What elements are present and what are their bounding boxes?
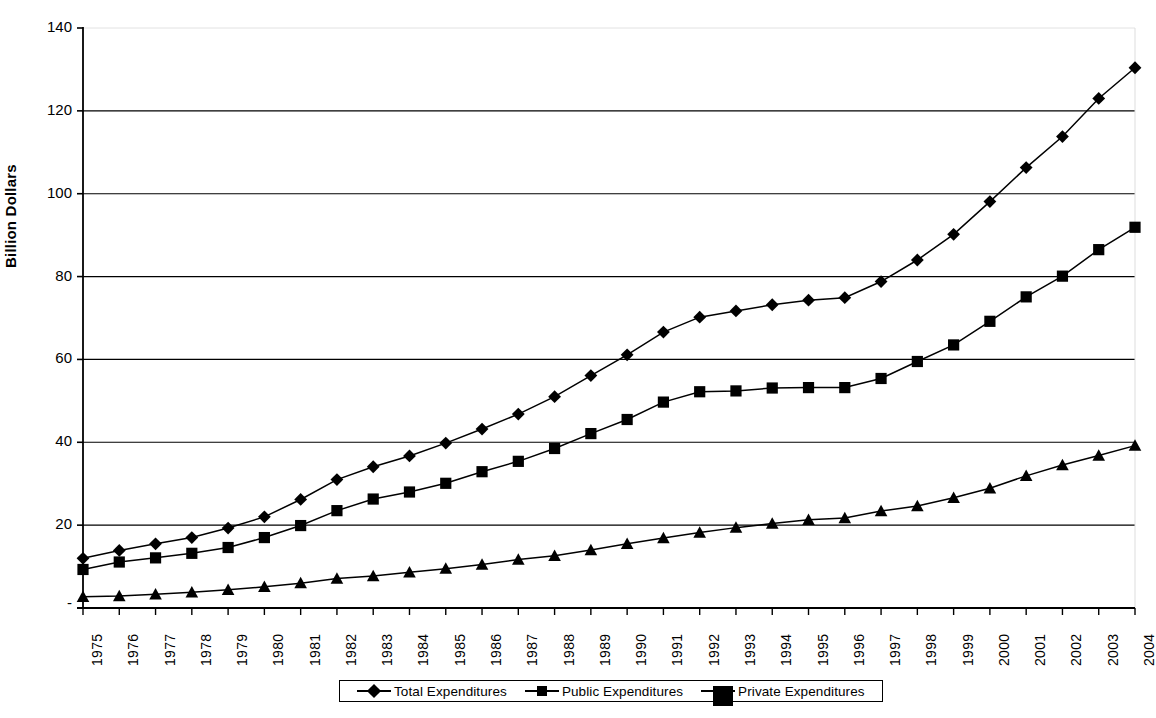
- x-tick-label: 1993: [742, 634, 758, 666]
- series-private-expenditures: [77, 439, 1142, 602]
- chart-legend: Total ExpendituresPublic ExpendituresPri…: [339, 680, 883, 702]
- data-point-marker: [367, 460, 380, 473]
- x-tick-label: 1985: [452, 634, 468, 666]
- x-tick-label: 2002: [1068, 634, 1084, 666]
- line-chart: Billion Dollars -20406080100120140 19751…: [0, 0, 1156, 718]
- data-point-marker: [223, 542, 234, 553]
- y-tick-label: -: [26, 594, 72, 611]
- data-point-marker: [294, 493, 307, 506]
- y-tick-label: 60: [26, 349, 72, 366]
- data-point-marker: [1129, 222, 1140, 233]
- plot-area: [0, 0, 1156, 718]
- data-point-marker: [114, 556, 125, 567]
- series-line: [83, 227, 1135, 569]
- data-point-marker: [331, 505, 342, 516]
- data-point-marker: [911, 254, 924, 267]
- data-point-marker: [1057, 271, 1068, 282]
- data-point-marker: [875, 373, 886, 384]
- data-point-marker: [149, 537, 162, 550]
- x-tick-label: 1992: [706, 634, 722, 666]
- data-point-marker: [766, 298, 779, 311]
- data-point-marker: [803, 382, 814, 393]
- x-tick-label: 2003: [1105, 634, 1121, 666]
- data-point-marker: [331, 473, 344, 486]
- data-point-marker: [476, 423, 489, 436]
- data-point-marker: [549, 443, 560, 454]
- data-point-marker: [584, 369, 597, 382]
- data-point-marker: [77, 552, 90, 565]
- series-line: [83, 446, 1135, 597]
- x-tick-label: 1997: [887, 634, 903, 666]
- data-point-marker: [1021, 291, 1032, 302]
- data-point-marker: [150, 552, 161, 563]
- x-tick-label: 2004: [1141, 634, 1156, 666]
- x-tick-label: 1995: [815, 634, 831, 666]
- triangle-marker-icon: [701, 685, 735, 697]
- data-point-marker: [548, 390, 561, 403]
- x-tick-label: 2000: [996, 634, 1012, 666]
- x-tick-label: 1976: [125, 634, 141, 666]
- data-point-marker: [838, 291, 851, 304]
- data-point-marker: [767, 382, 778, 393]
- data-point-marker: [404, 486, 415, 497]
- x-tick-label: 1975: [89, 634, 105, 666]
- y-tick-label: 20: [26, 515, 72, 532]
- legend-item-diamond: Total Expenditures: [357, 684, 507, 699]
- x-tick-label: 1984: [415, 634, 431, 666]
- series-public-expenditures: [77, 222, 1140, 575]
- x-tick-label: 1988: [561, 634, 577, 666]
- data-point-marker: [693, 311, 706, 324]
- data-point-marker: [622, 414, 633, 425]
- data-point-marker: [77, 564, 88, 575]
- data-point-marker: [186, 548, 197, 559]
- legend-marker: [537, 686, 547, 696]
- x-tick-label: 1996: [851, 634, 867, 666]
- data-point-marker: [948, 339, 959, 350]
- legend-item-square: Public Expenditures: [525, 684, 683, 699]
- data-point-marker: [258, 510, 271, 523]
- data-point-marker: [185, 531, 198, 544]
- x-tick-label: 2001: [1032, 634, 1048, 666]
- data-point-marker: [1093, 244, 1104, 255]
- y-tick-label: 80: [26, 267, 72, 284]
- data-point-marker: [694, 386, 705, 397]
- data-point-marker: [295, 520, 306, 531]
- data-point-marker: [113, 544, 126, 557]
- data-point-marker: [513, 456, 524, 467]
- data-point-marker: [368, 493, 379, 504]
- x-tick-label: 1982: [343, 634, 359, 666]
- data-point-marker: [259, 532, 270, 543]
- x-tick-label: 1983: [379, 634, 395, 666]
- data-point-marker: [802, 294, 815, 307]
- data-point-marker: [439, 437, 452, 450]
- x-tick-label: 1981: [307, 634, 323, 666]
- legend-item-triangle: Private Expenditures: [701, 684, 865, 699]
- data-point-marker: [1129, 439, 1142, 450]
- data-point-marker: [984, 316, 995, 327]
- data-point-marker: [658, 397, 669, 408]
- legend-label: Public Expenditures: [562, 684, 683, 699]
- legend-marker: [713, 686, 733, 706]
- data-point-marker: [585, 428, 596, 439]
- legend-label: Private Expenditures: [738, 684, 865, 699]
- data-point-marker: [222, 522, 235, 535]
- data-point-marker: [839, 382, 850, 393]
- x-tick-label: 1977: [162, 634, 178, 666]
- data-point-marker: [476, 466, 487, 477]
- series-line: [83, 68, 1135, 559]
- data-point-marker: [657, 326, 670, 339]
- legend-label: Total Expenditures: [394, 684, 507, 699]
- x-tick-label: 1999: [960, 634, 976, 666]
- x-tick-label: 1987: [524, 634, 540, 666]
- square-marker-icon: [525, 685, 559, 697]
- x-tick-label: 1998: [923, 634, 939, 666]
- y-tick-label: 100: [26, 184, 72, 201]
- y-tick-label: 40: [26, 432, 72, 449]
- x-tick-label: 1991: [669, 634, 685, 666]
- x-tick-label: 1979: [234, 634, 250, 666]
- series-total-expenditures: [77, 61, 1142, 564]
- data-point-marker: [403, 450, 416, 463]
- data-point-marker: [512, 408, 525, 421]
- x-tick-label: 1986: [488, 634, 504, 666]
- diamond-marker-icon: [357, 685, 391, 697]
